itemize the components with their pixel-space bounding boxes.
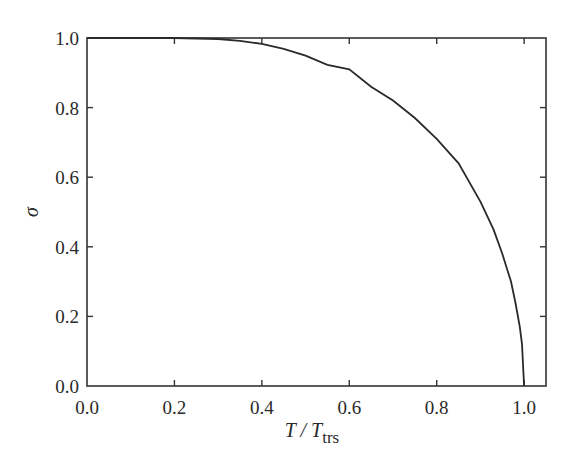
y-tick-label: 0.8 [55,98,79,119]
x-tick-label: 0.0 [75,397,99,418]
x-axis-ticks: 0.00.20.40.60.81.0 [75,38,536,418]
x-axis-label: T / Ttrs [285,419,339,447]
x-tick-label: 0.2 [163,397,187,418]
y-axis-ticks: 0.00.20.40.60.81.0 [55,28,546,397]
y-tick-label: 0.2 [55,306,79,327]
y-tick-label: 1.0 [55,28,79,49]
sigma-curve [87,38,524,386]
y-tick-label: 0.4 [55,237,79,258]
y-tick-label: 0.6 [55,167,79,188]
y-tick-label: 0.0 [55,376,79,397]
x-tick-label: 0.8 [425,397,449,418]
y-axis-label: σ [20,206,42,217]
plot-frame [87,38,546,386]
x-tick-label: 0.4 [250,397,274,418]
order-parameter-chart: 0.00.20.40.60.81.0 0.00.20.40.60.81.0 T … [0,0,577,470]
x-tick-label: 1.0 [512,397,536,418]
x-tick-label: 0.6 [337,397,361,418]
